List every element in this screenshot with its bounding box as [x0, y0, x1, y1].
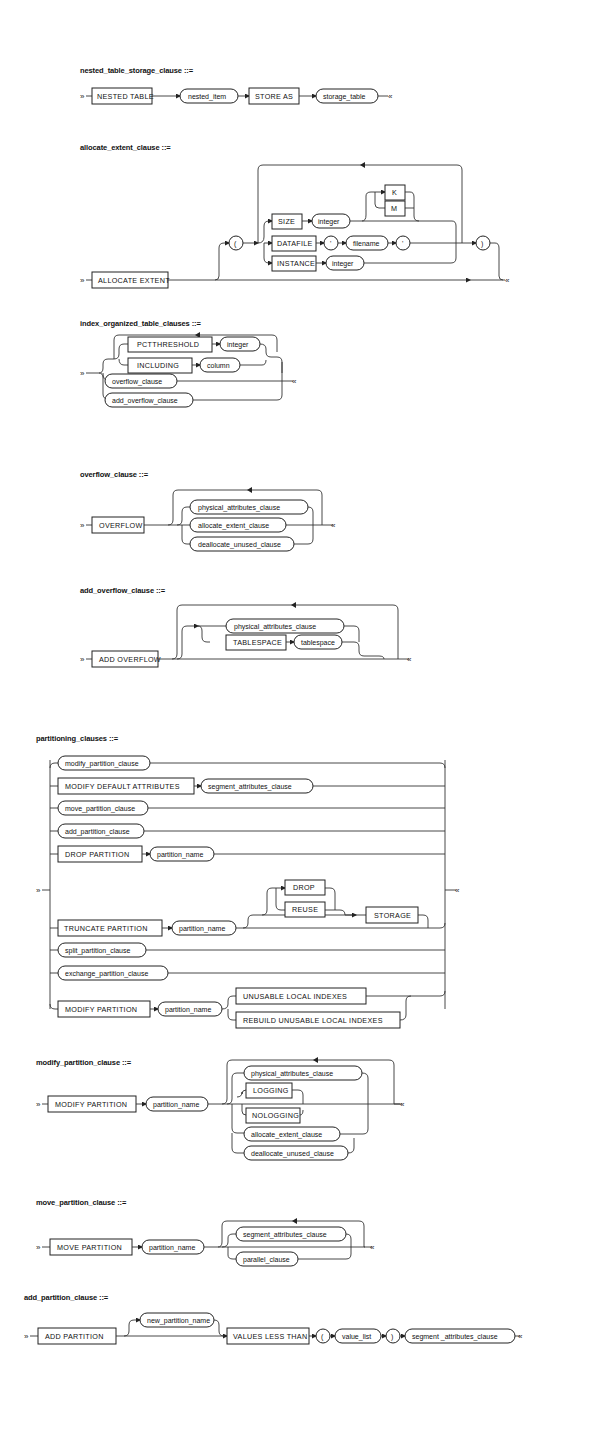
svg-text:ADD OVERFLOW: ADD OVERFLOW [99, 655, 161, 664]
keyword-logging: LOGGING [246, 1083, 292, 1098]
diagram-modify-partition-clause: » MODIFY PARTITION partition_name physic… [36, 1057, 405, 1160]
svg-text:add_partition_clause: add_partition_clause [65, 828, 130, 836]
keyword-truncate-partition: TRUNCATE PARTITION [58, 920, 162, 936]
svg-text:«: « [370, 1243, 375, 1252]
nonterminal-nested-item: nested_item [180, 89, 238, 103]
svg-text:»: » [36, 1243, 41, 1252]
start-marker-icon: » [80, 92, 85, 101]
svg-text:partition_name: partition_name [153, 1101, 199, 1109]
svg-text:modify_partition_clause: modify_partition_clause [65, 760, 139, 768]
svg-text:UNUSABLE LOCAL INDEXES: UNUSABLE LOCAL INDEXES [243, 992, 347, 1001]
svg-text:exchange_partition_clause: exchange_partition_clause [65, 970, 148, 978]
keyword-store-as: STORE AS [249, 88, 299, 104]
svg-text:MODIFY PARTITION: MODIFY PARTITION [55, 1100, 127, 1109]
end-marker-icon: « [388, 92, 393, 101]
svg-text:K: K [392, 188, 397, 197]
svg-text:STORE AS: STORE AS [255, 92, 293, 101]
svg-text:parallel_clause: parallel_clause [243, 1256, 290, 1264]
svg-text:integer: integer [318, 218, 340, 226]
svg-text:partition_name: partition_name [179, 925, 225, 933]
diagram-partitioning-clauses: » « modify_partition_clause MODIFY DEFAU… [36, 756, 460, 1028]
svg-text:»: » [80, 276, 85, 285]
nonterminal-parallel-clause: parallel_clause [236, 1252, 298, 1266]
nonterminal-modify-partition-clause: modify_partition_clause [58, 756, 150, 770]
nonterminal-exchange-partition-clause: exchange_partition_clause [58, 966, 168, 980]
svg-text:TABLESPACE: TABLESPACE [233, 638, 282, 647]
keyword-datafile: DATAFILE [272, 236, 316, 251]
nonterminal-column: column [200, 358, 240, 372]
keyword-size: SIZE [272, 214, 302, 229]
diagram-add-partition-clause: » ADD PARTITION new_partition_name VALUE… [24, 1313, 523, 1344]
nonterminal-overflow-clause: overflow_clause [105, 374, 177, 388]
keyword-instance: INSTANCE [272, 256, 316, 271]
svg-text:segment _attributes_clause: segment _attributes_clause [412, 1333, 498, 1341]
svg-text:overflow_clause: overflow_clause [112, 378, 162, 386]
nonterminal-physical-attributes-clause: physical_attributes_clause [190, 500, 308, 514]
nonterminal-partition-name: partition_name [150, 847, 214, 861]
keyword-drop-partition: DROP PARTITION [58, 846, 142, 862]
nonterminal-storage-table: storage_table [316, 89, 378, 103]
keyword-move-partition: MOVE PARTITION [50, 1239, 132, 1255]
svg-text:filename: filename [353, 240, 380, 247]
svg-text:move_partition_clause: move_partition_clause [65, 805, 135, 813]
nonterminal-physical-attributes-clause: physical_attributes_clause [244, 1066, 362, 1080]
nonterminal-move-partition-clause: move_partition_clause [58, 801, 148, 815]
svg-text:»: » [36, 886, 41, 895]
keyword-unusable-local-indexes: UNUSABLE LOCAL INDEXES [236, 988, 366, 1004]
nonterminal-integer-size: integer [312, 214, 350, 228]
nonterminal-new-partition-name: new_partition_name [140, 1313, 214, 1327]
nonterminal-partition-name: partition_name [172, 921, 236, 935]
svg-text:INSTANCE: INSTANCE [277, 259, 315, 268]
svg-text:physical_attributes_clause: physical_attributes_clause [198, 504, 280, 512]
svg-text:NOLOGGING: NOLOGGING [252, 1111, 299, 1120]
svg-text:partition_name: partition_name [157, 851, 203, 859]
nonterminal-add-partition-clause: add_partition_clause [58, 824, 144, 838]
keyword-values-less-than: VALUES LESS THAN [227, 1328, 309, 1344]
nonterminal-physical-attributes-clause: physical_attributes_clause [226, 619, 344, 633]
svg-text:DROP: DROP [293, 883, 315, 892]
svg-text:add_overflow_clause: add_overflow_clause [112, 397, 178, 405]
syntax-diagrams-canvas: » NESTED TABLE nested_item STORE AS stor… [0, 0, 607, 1429]
svg-text:M: M [391, 204, 397, 213]
svg-text:SIZE: SIZE [278, 217, 295, 226]
svg-text:MODIFY DEFAULT ATTRIBUTES: MODIFY DEFAULT ATTRIBUTES [65, 782, 180, 791]
svg-text:«: « [455, 886, 460, 895]
svg-text:': ' [402, 240, 403, 247]
svg-text:»: » [80, 369, 85, 378]
diagram-nested-table-storage-clause: » NESTED TABLE nested_item STORE AS stor… [80, 88, 393, 104]
svg-text:integer: integer [332, 260, 354, 268]
svg-text:»: » [80, 655, 85, 664]
keyword-nologging: NOLOGGING [246, 1108, 300, 1123]
svg-text:DROP PARTITION: DROP PARTITION [65, 850, 130, 859]
svg-text:deallocate_unused_clause: deallocate_unused_clause [198, 541, 281, 549]
svg-text:»: » [24, 1332, 29, 1341]
keyword-tablespace: TABLESPACE [226, 635, 286, 650]
keyword-pctthreshold: PCTTHRESHOLD [128, 337, 212, 352]
svg-text:INCLUDING: INCLUDING [137, 361, 179, 370]
svg-text:nested_item: nested_item [188, 93, 226, 101]
svg-text:deallocate_unused_clause: deallocate_unused_clause [251, 1150, 334, 1158]
nonterminal-segment-attributes-clause: segment_attributes_clause [201, 779, 313, 793]
svg-text:«: « [292, 377, 297, 386]
diagram-move-partition-clause: » MOVE PARTITION partition_name segment_… [36, 1218, 375, 1266]
diagram-allocate-extent-clause: » ALLOCATE EXTENT ( SIZE integer [80, 162, 510, 288]
keyword-modify-partition: MODIFY PARTITION [58, 1001, 150, 1017]
svg-text:«: « [407, 655, 412, 664]
keyword-nested-table: NESTED TABLE [92, 88, 154, 104]
svg-text:partition_name: partition_name [149, 1244, 195, 1252]
keyword-rebuild-unusable-local-indexes: REBUILD UNUSABLE LOCAL INDEXES [236, 1012, 400, 1028]
nonterminal-partition-name: partition_name [158, 1002, 222, 1016]
svg-text:value_list: value_list [342, 1333, 371, 1341]
symbol-close-paren: ) [476, 236, 490, 250]
svg-text:«: « [505, 276, 510, 285]
nonterminal-allocate-extent-clause: allocate_extent_clause [190, 518, 286, 532]
keyword-add-overflow: ADD OVERFLOW [92, 651, 161, 667]
nonterminal-integer-instance: integer [326, 256, 364, 270]
svg-text:MOVE PARTITION: MOVE PARTITION [57, 1243, 122, 1252]
symbol-quote-close: ' [396, 236, 410, 250]
nonterminal-partition-name: partition_name [146, 1097, 208, 1111]
keyword-add-partition: ADD PARTITION [38, 1328, 116, 1344]
nonterminal-segment-attributes-clause: segment_attributes_clause [236, 1227, 346, 1241]
svg-text:segment_attributes_clause: segment_attributes_clause [208, 783, 292, 791]
keyword-overflow: OVERFLOW [92, 517, 144, 533]
